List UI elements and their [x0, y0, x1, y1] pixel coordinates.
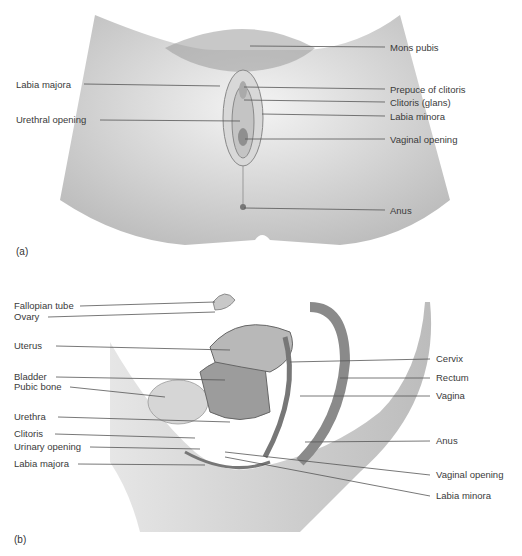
label-urethra: Urethra: [14, 411, 46, 422]
label-vaginal-opening-b: Vaginal opening: [436, 469, 503, 480]
label-pubic-bone: Pubic bone: [14, 381, 62, 392]
label-mons-pubis: Mons pubis: [390, 42, 439, 53]
external-anatomy-illustration: [0, 0, 522, 260]
label-cervix: Cervix: [436, 353, 463, 364]
label-labia-minora: Labia minora: [390, 111, 445, 122]
label-anus-b: Anus: [436, 435, 458, 446]
label-fallopian-tube: Fallopian tube: [14, 300, 74, 311]
label-anus: Anus: [390, 205, 412, 216]
panel-letter-b: (b): [14, 534, 26, 545]
label-labia-majora: Labia majora: [16, 79, 71, 90]
label-prepuce-of-clitoris: Prepuce of clitoris: [390, 84, 466, 95]
panel-b-sagittal-section: Fallopian tube Ovary Uterus Bladder Pubi…: [0, 262, 522, 556]
label-uterus: Uterus: [14, 340, 42, 351]
label-vaginal-opening: Vaginal opening: [390, 134, 457, 145]
label-clitoris: Clitoris: [14, 428, 43, 439]
label-urinary-opening: Urinary opening: [14, 441, 81, 452]
label-labia-majora-b: Labia majora: [14, 458, 69, 469]
label-rectum: Rectum: [436, 372, 469, 383]
panel-letter-a: (a): [16, 246, 28, 257]
label-clitoris-glans: Clitoris (glans): [390, 97, 451, 108]
label-urethral-opening: Urethral opening: [16, 114, 86, 125]
label-vagina: Vagina: [436, 390, 465, 401]
panel-a-external-view: Mons pubis Labia majora Prepuce of clito…: [0, 0, 522, 260]
label-labia-minora-b: Labia minora: [436, 490, 491, 501]
label-ovary: Ovary: [14, 311, 39, 322]
sagittal-anatomy-illustration: [0, 262, 522, 556]
